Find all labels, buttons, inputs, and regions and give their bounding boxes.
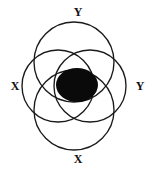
figure-root: Y X Y X (0, 0, 156, 175)
label-left: X (8, 80, 22, 92)
intersection-ellipse (56, 68, 98, 102)
label-top: Y (0, 6, 156, 18)
label-right: Y (133, 80, 147, 92)
label-bottom: X (0, 153, 156, 165)
